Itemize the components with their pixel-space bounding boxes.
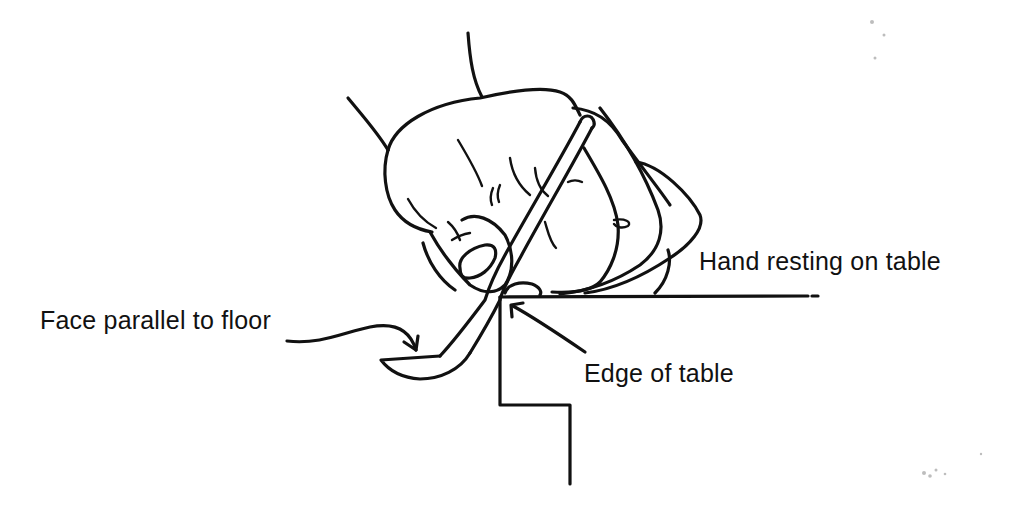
scan-speck <box>870 20 874 24</box>
thumb-crease-2 <box>452 233 470 240</box>
instrument-handle-right <box>470 128 592 353</box>
forearm-line-left <box>348 98 388 150</box>
scan-speck <box>944 473 947 476</box>
label-hand-resting-on-table: Hand resting on table <box>699 249 941 274</box>
finger-crease-a <box>568 181 582 183</box>
scan-speck <box>883 34 886 37</box>
hand-back-outline <box>388 90 580 150</box>
table-top-line <box>500 296 808 297</box>
knuckle-crease-1 <box>408 199 436 228</box>
figure-canvas: Hand resting on table Face parallel to f… <box>0 0 1028 519</box>
knuckle-crease-5 <box>491 188 493 205</box>
scan-speck <box>874 57 877 60</box>
knuckle-crease-2 <box>458 140 482 186</box>
fingertip-on-table <box>505 283 541 295</box>
instrument-handle-top <box>580 116 594 128</box>
thumb-underside <box>423 243 455 290</box>
thumbnail <box>460 245 496 278</box>
knuckle-crease-3 <box>510 158 530 195</box>
scan-speck <box>922 471 926 475</box>
forearm-line-upper <box>468 33 482 97</box>
scan-speck <box>928 474 932 478</box>
finger-crease-b <box>545 222 556 248</box>
middle-finger-outline <box>552 148 618 292</box>
pinky-tip-under <box>655 250 669 293</box>
scan-speck <box>935 469 938 472</box>
scan-speck <box>980 453 982 455</box>
edge-callout-arrow <box>513 306 585 352</box>
table-edge-outline <box>500 297 570 484</box>
knuckle-crease-6 <box>498 185 500 202</box>
label-face-parallel-to-floor: Face parallel to floor <box>40 308 271 333</box>
face-callout-arrow <box>287 326 416 350</box>
label-edge-of-table: Edge of table <box>584 361 734 386</box>
instrument-blade <box>381 353 470 379</box>
